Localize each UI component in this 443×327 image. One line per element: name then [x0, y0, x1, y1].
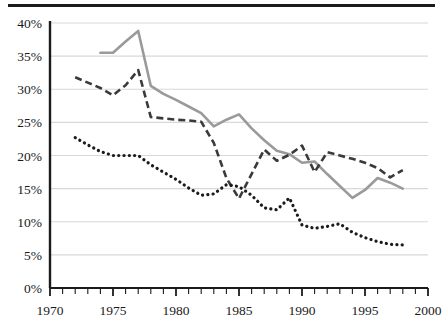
x-tick-label: 1985 — [226, 303, 253, 318]
x-tick-label: 1995 — [352, 303, 379, 318]
y-tick-label: 15% — [17, 182, 42, 197]
x-minor-ticks-group — [50, 288, 428, 296]
x-tick-labels-group: 1970197519801985199019952000 — [37, 303, 442, 318]
x-tick-label: 1990 — [289, 303, 316, 318]
series-line-dotted-black-series — [75, 138, 403, 245]
y-tick-label: 25% — [17, 115, 42, 130]
y-tick-label: 10% — [17, 215, 42, 230]
y-tick-label: 20% — [17, 149, 42, 164]
x-tick-label: 1970 — [37, 303, 64, 318]
y-tick-label: 0% — [24, 281, 42, 296]
x-tick-label: 1975 — [100, 303, 127, 318]
x-tick-label: 2000 — [415, 303, 442, 318]
y-tick-labels-group: 0%5%10%15%20%25%30%35%40% — [17, 16, 42, 296]
x-tick-label: 1980 — [163, 303, 190, 318]
y-tick-label: 40% — [17, 16, 42, 31]
line-chart: 0%5%10%15%20%25%30%35%40% 19701975198019… — [0, 0, 443, 327]
data-series-group — [75, 31, 403, 245]
y-tick-label: 5% — [24, 248, 42, 263]
y-tick-label: 35% — [17, 49, 42, 64]
gridlines-group — [50, 23, 428, 255]
figure-container: 0%5%10%15%20%25%30%35%40% 19701975198019… — [0, 0, 443, 327]
y-tick-label: 30% — [17, 82, 42, 97]
